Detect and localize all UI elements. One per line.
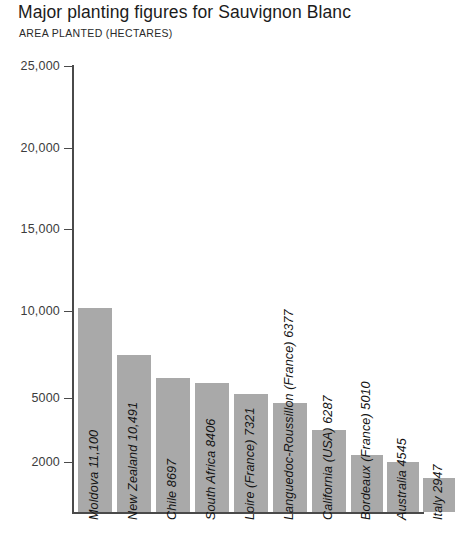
bar-label: Australia 4545 (395, 438, 409, 520)
y-axis-tick-mark (64, 311, 73, 312)
y-axis-tick-label: 25,000 (21, 59, 60, 73)
y-axis-tick-label: 5000 (31, 391, 60, 405)
bar-label: Chile 8697 (165, 459, 179, 520)
y-axis-tick-mark (64, 229, 73, 230)
bar-label: California (USA) 6287 (321, 395, 335, 520)
bar-label: New Zealand 10,491 (126, 402, 140, 520)
y-axis-line (72, 65, 74, 514)
y-axis-tick-label: 2000 (31, 455, 60, 469)
y-axis-tick-mark (64, 148, 73, 149)
bar-label: Moldova 11,100 (87, 430, 101, 520)
bar-label: Italy 2947 (431, 464, 445, 520)
bar-label: Loire (France) 7321 (243, 407, 257, 520)
bar-label: Languedoc-Roussillon (France) 6377 (282, 309, 296, 520)
y-axis-tick-label: 15,000 (21, 222, 60, 236)
y-axis-tick-mark (64, 462, 73, 463)
bar-label: Bordeaux (France) 5010 (359, 381, 373, 520)
y-axis-tick-label: 20,000 (21, 141, 60, 155)
y-axis-tick-mark (64, 66, 73, 67)
y-axis-tick-mark (64, 398, 73, 399)
bar-label: South Africa 8406 (204, 419, 218, 520)
y-axis-tick-label: 10,000 (21, 304, 60, 318)
